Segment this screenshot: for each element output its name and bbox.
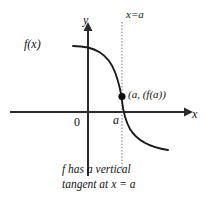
function-label: f(x) — [24, 38, 41, 50]
figure-caption: f has a vertical tangent at x = a — [62, 162, 192, 191]
caption-line-2: tangent at x = a — [62, 177, 192, 192]
x-axis — [10, 108, 193, 117]
x-axis-label: x — [192, 108, 197, 120]
vertical-line-label: x=a — [126, 9, 144, 20]
y-axis-label: y — [83, 14, 88, 26]
y-axis — [84, 22, 93, 176]
caption-line-1: f has a vertical — [62, 162, 192, 177]
x-tick-label-a: a — [113, 114, 119, 126]
point-marker-a-fa — [118, 93, 125, 100]
origin-label: 0 — [74, 116, 80, 128]
point-coordinate-label: (a, (f(a)) — [128, 89, 166, 100]
